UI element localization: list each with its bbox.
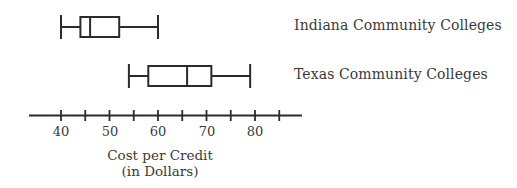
x-axis-title-line1: Cost per Credit <box>80 147 240 163</box>
tick-label-70: 70 <box>199 124 216 139</box>
tick-label-50: 50 <box>102 124 119 139</box>
series-label-indiana: Indiana Community Colleges <box>294 17 502 33</box>
tick-label-80: 80 <box>247 124 264 139</box>
x-axis-title: Cost per Credit (in Dollars) <box>80 147 240 179</box>
box-group <box>61 15 250 88</box>
iqr-box <box>80 17 119 37</box>
tick-label-40: 40 <box>53 124 70 139</box>
boxplot-indiana <box>61 15 158 39</box>
x-axis <box>29 110 302 121</box>
tick-label-60: 60 <box>150 124 167 139</box>
boxplot-texas <box>129 64 250 88</box>
iqr-box <box>148 66 211 86</box>
series-label-texas: Texas Community Colleges <box>294 66 488 82</box>
x-axis-title-line2: (in Dollars) <box>80 163 240 179</box>
